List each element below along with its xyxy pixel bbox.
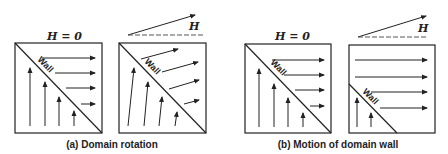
panel-a-right: H Wall [119,15,206,133]
panel-b-left: H = 0 Wall [245,30,331,133]
field-label-h0: H = 0 [46,30,82,43]
rotated-arrows-up [128,68,177,126]
domain-box [349,45,435,133]
wall-label: Wall [143,56,163,76]
field-label-h: H [188,20,200,33]
magnetization-arrows-up [357,98,371,127]
field-label-h0: H = 0 [274,30,310,43]
panel-b-right: H Wall [349,16,435,133]
panel-a-left: H = 0 Wall [15,30,102,133]
wall-label: Wall [36,54,56,74]
applied-field-arrow [128,15,195,35]
caption-b: (b) Motion of domain wall [278,139,399,150]
caption-a: (a) Domain rotation [66,139,158,150]
wall-label: Wall [361,86,381,106]
field-label-h: H [417,22,429,35]
domain-diagram: H = 0 Wall H Wall [0,0,448,154]
applied-field-arrow [358,16,426,37]
